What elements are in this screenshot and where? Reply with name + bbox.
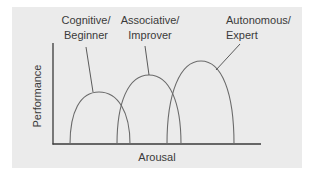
autonomous-label: Autonomous/ Expert xyxy=(226,14,291,42)
cognitive-curve xyxy=(70,92,130,144)
cognitive-leader-line xyxy=(86,47,93,92)
associative-label: Associative/ Improver xyxy=(121,14,180,42)
y-axis-label: Performance xyxy=(31,65,43,128)
cognitive-label-line1: Cognitive/ xyxy=(62,14,111,27)
associative-label-line2: Improver xyxy=(121,29,180,42)
autonomous-label-line1: Autonomous/ xyxy=(226,14,291,27)
autonomous-leader-line xyxy=(216,44,240,70)
associative-label-line1: Associative/ xyxy=(121,14,180,27)
x-axis-label: Arousal xyxy=(138,151,175,163)
autonomous-label-line2: Expert xyxy=(226,29,291,42)
cognitive-label: Cognitive/ Beginner xyxy=(62,14,111,42)
associative-leader-line xyxy=(145,46,149,75)
cognitive-label-line2: Beginner xyxy=(62,29,111,42)
associative-curve xyxy=(117,75,181,144)
autonomous-curve xyxy=(167,61,234,144)
